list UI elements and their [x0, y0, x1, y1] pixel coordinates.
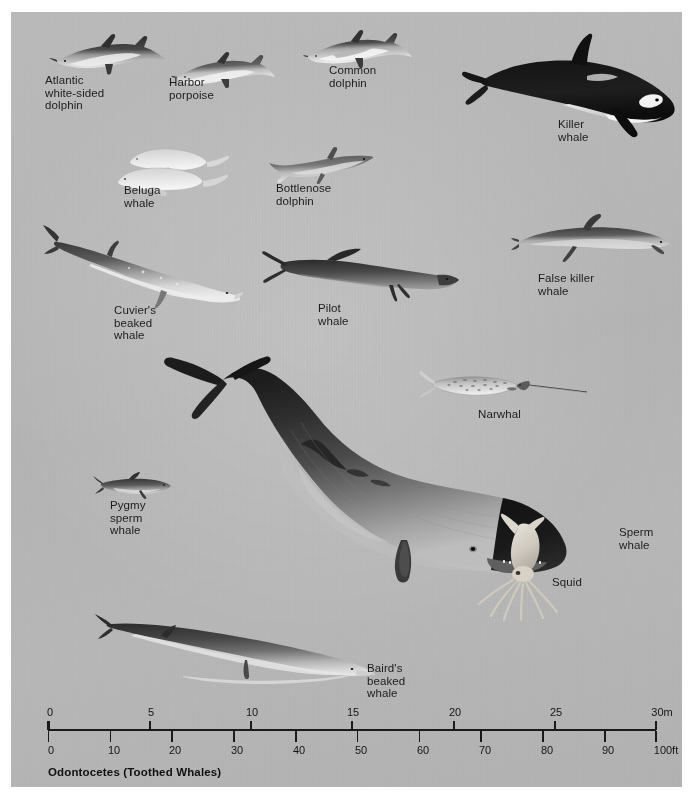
- scale-label-ft-50: 50: [355, 744, 367, 756]
- scale-bar: 0 5 10 15 20 25 30m 0 10 20 30 40 50: [38, 702, 663, 764]
- scale-label-ft-80: 80: [541, 744, 553, 756]
- scale-tick-ft-0: [48, 731, 50, 742]
- scale-label-m-15: 15: [347, 706, 359, 718]
- whale-size-chart-figure: Atlantic white-sided dolphin Harbor porp…: [0, 0, 697, 804]
- scale-label-ft-60: 60: [417, 744, 429, 756]
- scale-label-m-20: 20: [449, 706, 461, 718]
- animal-false-killer-whale: [511, 214, 671, 270]
- figure-caption: Odontocetes (Toothed Whales): [48, 766, 221, 778]
- scale-tick-m-5: [149, 721, 151, 730]
- scale-tick-ft-70: [480, 731, 482, 742]
- scale-tick-ft-90: [604, 731, 606, 742]
- scale-label-ft-70: 70: [479, 744, 491, 756]
- scale-tick-ft-10: [110, 731, 112, 742]
- label-cuviers-beaked-whale: Cuvier's beaked whale: [114, 304, 156, 342]
- scale-label-ft-40: 40: [293, 744, 305, 756]
- scale-tick-ft-50: [357, 731, 359, 742]
- label-harbor-porpoise: Harbor porpoise: [169, 76, 214, 101]
- scale-label-m-0: 0: [47, 706, 53, 718]
- label-false-killer-whale: False killer whale: [538, 272, 594, 297]
- scale-tick-m-20: [453, 721, 455, 730]
- label-common-dolphin: Common dolphin: [329, 64, 376, 89]
- animal-common-dolphin: [303, 26, 413, 68]
- animal-atlantic-white-sided-dolphin: [49, 28, 171, 74]
- label-killer-whale: Killer whale: [558, 118, 589, 143]
- label-pygmy-sperm-whale: Pygmy sperm whale: [110, 499, 146, 537]
- scale-tick-m-30: [655, 721, 657, 730]
- scale-label-ft-10: 10: [108, 744, 120, 756]
- scale-label-ft-100: 100ft: [654, 744, 678, 756]
- label-squid: Squid: [552, 576, 582, 589]
- label-atlantic-white-sided-dolphin: Atlantic white-sided dolphin: [45, 74, 104, 112]
- scale-tick-ft-100: [655, 731, 657, 742]
- animal-cuviers-beaked-whale: [43, 224, 245, 306]
- label-bairds-beaked-whale: Baird's beaked whale: [367, 662, 405, 700]
- scale-label-ft-90: 90: [602, 744, 614, 756]
- scale-label-ft-20: 20: [169, 744, 181, 756]
- illustration-panel: Atlantic white-sided dolphin Harbor porp…: [11, 12, 682, 787]
- scale-tick-ft-40: [295, 731, 297, 742]
- scale-tick-m-10: [250, 721, 252, 730]
- scale-tick-m-25: [554, 721, 556, 730]
- animal-bairds-beaked-whale: [95, 614, 377, 686]
- scale-tick-ft-80: [542, 731, 544, 742]
- scale-label-m-30: 30m: [651, 706, 672, 718]
- label-sperm-whale: Sperm whale: [619, 526, 653, 551]
- label-pilot-whale: Pilot whale: [318, 302, 349, 327]
- label-narwhal: Narwhal: [478, 408, 521, 421]
- scale-tick-ft-20: [171, 731, 173, 742]
- scale-label-ft-30: 30: [231, 744, 243, 756]
- animal-squid: [463, 512, 583, 622]
- scale-tick-ft-60: [419, 731, 421, 742]
- scale-tick-ft-30: [233, 731, 235, 742]
- scale-label-m-25: 25: [550, 706, 562, 718]
- label-beluga-whale: Beluga whale: [124, 184, 160, 209]
- scale-label-m-10: 10: [246, 706, 258, 718]
- animal-pilot-whale: [261, 240, 461, 302]
- scale-tick-m-15: [351, 721, 353, 730]
- scale-label-m-5: 5: [148, 706, 154, 718]
- scale-tick-m-0: [47, 721, 49, 730]
- scale-label-ft-0: 0: [48, 744, 54, 756]
- label-bottlenose-dolphin: Bottlenose dolphin: [276, 182, 331, 207]
